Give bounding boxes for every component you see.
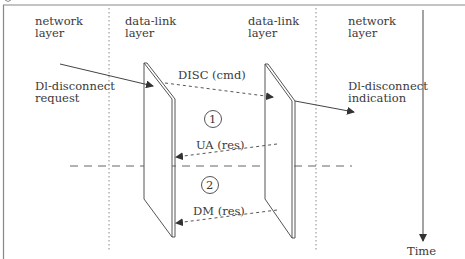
- header-line2: layer: [248, 27, 299, 39]
- case-1-number: 1: [209, 113, 216, 125]
- header-line2: layer: [125, 27, 176, 39]
- header-line2: layer: [348, 27, 396, 39]
- column-header-datalink-left: data-link layer: [125, 15, 176, 39]
- caption-fragment: [5, 0, 11, 2]
- case-2-number: 2: [206, 179, 213, 191]
- request-label: Dl-disconnect request: [35, 80, 115, 104]
- ua-label: UA (res): [196, 139, 244, 151]
- indication-line2: indication: [348, 92, 428, 104]
- diagram-canvas: network layer data-link layer data-link …: [0, 0, 465, 259]
- request-line2: request: [35, 92, 115, 104]
- left-datalink-panel: [144, 63, 175, 237]
- column-header-network-left: network layer: [35, 15, 83, 39]
- indication-arrow: [295, 101, 354, 112]
- time-label: Time: [407, 245, 436, 257]
- right-datalink-panel: [265, 64, 295, 238]
- column-header-datalink-right: data-link layer: [248, 15, 299, 39]
- disc-arrow: [165, 83, 273, 97]
- dm-label: DM (res): [193, 205, 245, 217]
- disc-label: DISC (cmd): [178, 69, 246, 81]
- indication-label: Dl-disconnect indication: [348, 80, 428, 104]
- header-line2: layer: [35, 27, 83, 39]
- column-header-network-right: network layer: [348, 15, 396, 39]
